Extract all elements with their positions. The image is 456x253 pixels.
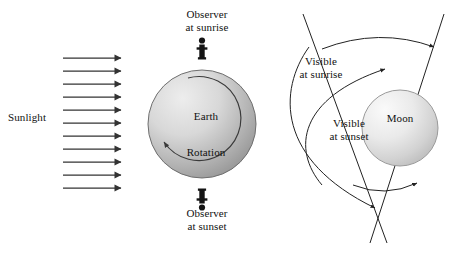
astronomy-diagram: Sunlight Observerat sunrise Observerat s…	[0, 0, 456, 253]
observer-sunset-label: Observerat sunset	[162, 207, 252, 232]
visible-at-sunrise-line2: at sunrise	[300, 68, 343, 80]
visible-at-sunset-line2: at sunset	[329, 130, 368, 142]
moon-label: Moon	[372, 112, 428, 125]
visible-at-sunrise-line1: Visible	[305, 55, 337, 67]
earth-label: Earth	[166, 110, 246, 123]
sunlight-label: Sunlight	[8, 111, 46, 124]
earth-sphere	[148, 70, 256, 178]
top-span-arc	[322, 37, 434, 49]
observer-sunrise-line2: at sunrise	[186, 21, 229, 33]
visible-at-sunrise-label: Visibleat sunrise	[283, 55, 359, 80]
observer-sunrise-icon	[197, 37, 208, 59]
observer-sunset-line1: Observer	[186, 207, 227, 219]
visible-at-sunset-line1: Visible	[333, 117, 365, 129]
observer-sunrise-line1: Observer	[186, 8, 227, 20]
earth-rotation-label: Rotation	[158, 146, 254, 159]
observer-sunset-line2: at sunset	[187, 220, 226, 232]
bottom-span-arc	[353, 183, 417, 191]
sunlight-rays	[63, 58, 121, 188]
observer-sunrise-label: Observerat sunrise	[162, 8, 252, 33]
